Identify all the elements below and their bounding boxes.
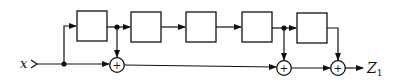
output-label-main: Z — [366, 60, 377, 76]
delay-block-1 — [77, 11, 107, 41]
delay-block-5 — [297, 13, 327, 43]
output-label-subscript: 1 — [377, 68, 383, 78]
delay-block-2 — [131, 12, 161, 42]
delay-block-3 — [186, 12, 216, 42]
plus-icon: + — [334, 63, 342, 74]
shift-register-diagram: x + + + Z1 — [0, 0, 398, 83]
plus-icon: + — [280, 63, 288, 74]
adder-3: + — [331, 61, 346, 76]
branch-to-block-1 — [64, 26, 76, 64]
input-label: x — [20, 56, 28, 71]
plus-icon: + — [113, 60, 121, 71]
tap-5-to-adder-3 — [327, 28, 338, 60]
adder-2: + — [277, 61, 292, 76]
output-label: Z1 — [366, 60, 382, 78]
adder-1: + — [110, 58, 125, 73]
delay-block-4 — [242, 12, 272, 42]
link-adder-1-2 — [124, 65, 276, 67]
